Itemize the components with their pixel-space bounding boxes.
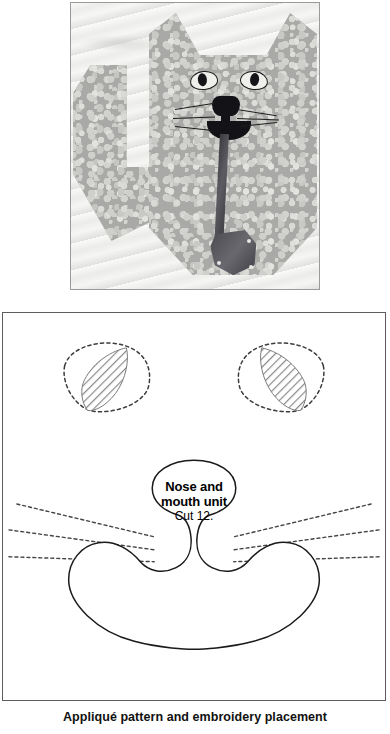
photo-bead-3 <box>249 265 253 269</box>
diagram-frame: Nose and mouth unit Cut 12. <box>2 312 386 701</box>
whisker-left-1 <box>17 504 154 537</box>
whisker-right-1 <box>234 504 371 537</box>
photo-cat-right-pupil <box>249 73 259 87</box>
cat-quilt-photo-figure <box>70 2 320 290</box>
whisker-left-2 <box>9 530 154 550</box>
pattern-diagram-drawing <box>3 313 385 700</box>
whisker-right-2 <box>234 530 379 550</box>
photo-bead-2 <box>217 261 221 265</box>
photo-frame <box>70 2 320 290</box>
applique-pattern-diagram-figure: Nose and mouth unit Cut 12. <box>2 312 386 701</box>
left-eye-applique-piece <box>82 348 128 411</box>
photo-bead-1 <box>247 239 251 243</box>
right-eye-applique-piece <box>261 348 307 411</box>
figure-caption: Appliqué pattern and embroidery placemen… <box>0 710 390 724</box>
photo-cat-left-pupil <box>197 73 207 87</box>
nose-and-mouth-unit-outline <box>69 460 320 649</box>
